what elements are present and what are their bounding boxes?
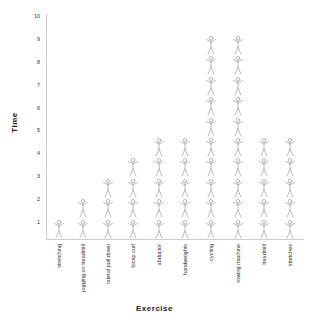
- stick-figure-icon: [203, 76, 219, 96]
- pictograph-column: [175, 137, 195, 239]
- stick-figure-icon: [203, 35, 219, 55]
- stick-figure-icon: [230, 198, 246, 218]
- x-tick-label: cycling: [208, 244, 214, 261]
- stick-figure-icon: [282, 157, 298, 177]
- stick-figure-icon: [230, 137, 246, 157]
- stick-figure-icon: [151, 198, 167, 218]
- stick-figure-icon: [230, 76, 246, 96]
- x-axis-line: [46, 239, 304, 240]
- pictograph-column: [254, 137, 274, 239]
- stick-figure-icon: [51, 219, 67, 239]
- y-tick-label: 5: [26, 127, 40, 133]
- stick-figure-icon: [125, 198, 141, 218]
- y-tick-label: 6: [26, 105, 40, 111]
- stick-figure-icon: [151, 178, 167, 198]
- stick-figure-icon: [125, 178, 141, 198]
- stick-figure-icon: [177, 178, 193, 198]
- pictograph-column: [201, 35, 221, 239]
- x-tick-label: lateral pull down: [105, 244, 111, 284]
- pictograph-column: [98, 178, 118, 239]
- stick-figure-icon: [282, 198, 298, 218]
- stick-figure-icon: [177, 137, 193, 157]
- stick-figure-icon: [256, 137, 272, 157]
- pictograph-column: [228, 35, 248, 239]
- stick-figure-icon: [151, 137, 167, 157]
- y-tick-label: 2: [26, 196, 40, 202]
- stick-figure-icon: [230, 96, 246, 116]
- stick-figure-icon: [125, 157, 141, 177]
- stick-figure-icon: [177, 198, 193, 218]
- stick-figure-icon: [151, 157, 167, 177]
- pictograph-column: [280, 137, 300, 239]
- stick-figure-icon: [151, 219, 167, 239]
- stick-figure-icon: [230, 219, 246, 239]
- stick-figure-icon: [125, 219, 141, 239]
- pictograph-column: [149, 137, 169, 239]
- y-tick-label: 4: [26, 150, 40, 156]
- stick-figure-icon: [282, 219, 298, 239]
- stick-figure-icon: [100, 219, 116, 239]
- x-tick-label: handweights: [182, 244, 188, 275]
- stick-figure-icon: [256, 157, 272, 177]
- stick-figure-icon: [256, 198, 272, 218]
- x-tick-label: stretches: [287, 244, 293, 266]
- x-tick-label: jogging on treadmill: [80, 244, 86, 292]
- stick-figure-icon: [75, 198, 91, 218]
- stick-figure-icon: [203, 96, 219, 116]
- stick-figure-icon: [203, 219, 219, 239]
- stick-figure-icon: [282, 178, 298, 198]
- stick-figure-icon: [203, 137, 219, 157]
- stick-figure-icon: [203, 55, 219, 75]
- stick-figure-icon: [230, 55, 246, 75]
- x-tick-label: treadmill: [261, 244, 267, 265]
- stick-figure-icon: [177, 219, 193, 239]
- stick-figure-icon: [75, 219, 91, 239]
- y-tick-label: 10: [26, 13, 40, 19]
- stick-figure-icon: [203, 117, 219, 137]
- pictograph-column: [49, 219, 69, 239]
- y-tick-label: 7: [26, 82, 40, 88]
- stick-figure-icon: [100, 178, 116, 198]
- stick-figure-icon: [230, 117, 246, 137]
- y-tick-label: 1: [26, 219, 40, 225]
- stick-figure-icon: [177, 157, 193, 177]
- stick-figure-icon: [230, 157, 246, 177]
- x-axis-title: Exercise: [0, 304, 309, 313]
- x-tick-label: rowing machine: [235, 244, 241, 283]
- y-tick-label: 9: [26, 36, 40, 42]
- stick-figure-icon: [282, 137, 298, 157]
- x-tick-label: bicep curl: [130, 244, 136, 268]
- pictograph-column: [123, 157, 143, 239]
- stick-figure-icon: [230, 35, 246, 55]
- y-tick-label: 3: [26, 173, 40, 179]
- y-axis-title: Time: [10, 112, 19, 133]
- stick-figure-icon: [100, 198, 116, 218]
- x-tick-label: stretching: [56, 244, 62, 268]
- stick-figure-icon: [256, 178, 272, 198]
- stick-figure-icon: [203, 178, 219, 198]
- x-tick-label: abductor: [156, 244, 162, 265]
- y-tick-label: 8: [26, 59, 40, 65]
- stick-figure-icon: [203, 157, 219, 177]
- y-axis-line: [46, 14, 47, 239]
- stick-figure-icon: [230, 178, 246, 198]
- stick-figure-icon: [203, 198, 219, 218]
- pictograph-column: [73, 198, 93, 239]
- stick-figure-icon: [256, 219, 272, 239]
